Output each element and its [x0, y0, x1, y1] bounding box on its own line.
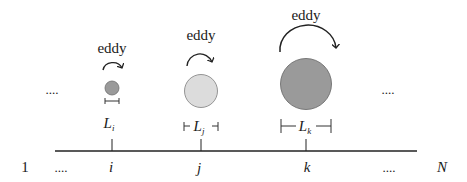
rotation-arrow-icon	[103, 63, 122, 70]
length-bracket-i	[105, 98, 119, 104]
axis-right-ellipsis: ....	[383, 160, 396, 175]
eddy-i-group: eddy Li	[97, 40, 127, 133]
axis-start-label: 1	[21, 159, 29, 175]
length-label-k: Lk	[298, 118, 312, 136]
axis-end-label: N	[436, 159, 448, 175]
eddy-j-label: eddy	[186, 27, 216, 43]
ellipsis-right: ....	[382, 82, 395, 97]
length-label-i: Li	[103, 115, 115, 133]
rotation-arrow-icon	[187, 54, 212, 66]
diagram-svg: eddy Li eddy Lj eddy Lk	[0, 0, 467, 182]
eddy-k-circle	[281, 59, 332, 110]
eddy-scale-diagram: eddy Li eddy Lj eddy Lk	[0, 0, 467, 182]
length-label-j: Lj	[193, 118, 205, 136]
ellipsis-left: ....	[46, 82, 59, 97]
axis-tick-label-i: i	[109, 159, 113, 175]
eddy-j-circle	[185, 75, 218, 108]
eddy-k-label: eddy	[291, 7, 321, 23]
eddy-k-group: eddy Lk	[280, 7, 336, 136]
eddy-j-group: eddy Lj	[184, 27, 218, 136]
axis-tick-label-k: k	[304, 159, 311, 175]
rotation-arrow-icon	[280, 25, 336, 52]
axis-left-ellipsis: ....	[55, 160, 68, 175]
axis-tick-label-j: j	[195, 160, 201, 176]
eddy-i-circle	[105, 81, 119, 95]
eddy-i-label: eddy	[97, 40, 127, 56]
scale-axis	[55, 139, 417, 151]
